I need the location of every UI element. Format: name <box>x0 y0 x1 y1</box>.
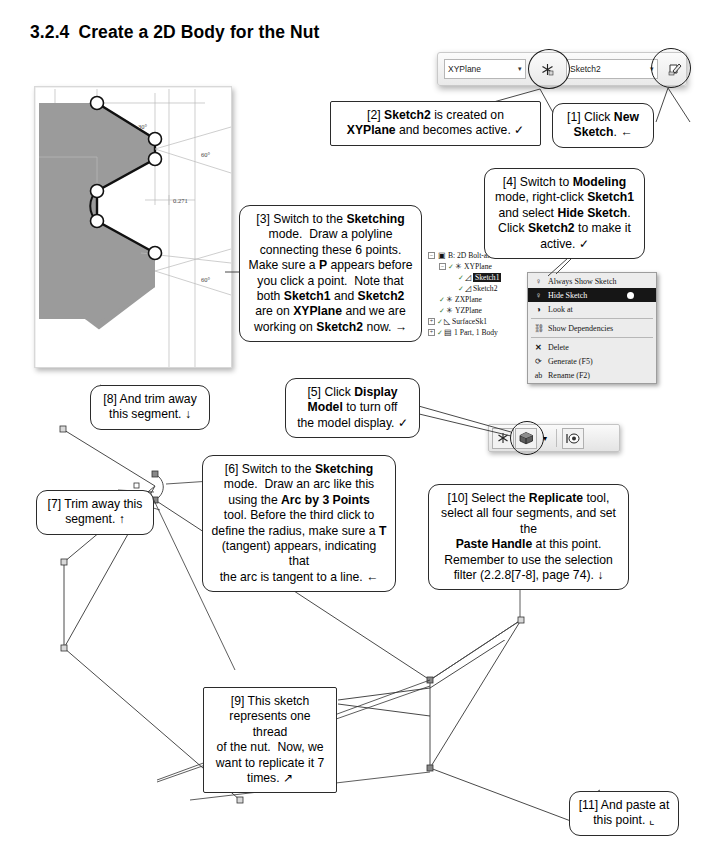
expander-icon[interactable]: − <box>428 252 435 259</box>
tree-node-label: YZPlane <box>455 306 482 315</box>
plane-icon: ✳ <box>455 262 462 271</box>
check-icon: ✓ <box>439 307 445 315</box>
plane-icon: ✳ <box>446 306 453 315</box>
callout-9: [9] This sketchrepresents one threadof t… <box>203 687 337 793</box>
body-icon: ▤ <box>444 328 452 337</box>
sketch-node <box>152 471 158 477</box>
check-icon: ✓ <box>437 329 443 337</box>
menu-item-rename[interactable]: ab Rename (F2) <box>528 368 656 382</box>
check-icon: ✓ <box>458 285 464 293</box>
check-icon: ✓ <box>448 263 454 271</box>
callout-1: [1] Click NewSketch. ← <box>552 103 654 148</box>
tree-node-label: ZXPlane <box>455 295 482 304</box>
surface-icon: ◺ <box>444 317 450 326</box>
expander-icon[interactable]: + <box>428 329 435 336</box>
menu-item-label: Generate (F5) <box>548 357 593 366</box>
project-icon: ▣ <box>438 251 446 260</box>
sketch-node <box>237 797 243 803</box>
callout-3: [3] Switch to the Sketchingmode. Draw a … <box>239 205 422 342</box>
callout-7: [7] Trim away thissegment. ↑ <box>36 490 154 535</box>
expander-icon[interactable]: + <box>428 318 435 325</box>
generate-icon: ⟳ <box>532 357 545 366</box>
callout-5: [5] Click DisplayModel to turn offthe mo… <box>285 378 420 438</box>
callout-8: [8] And trim awaythis segment. ↓ <box>90 385 210 430</box>
plane-icon: ✳ <box>446 295 453 304</box>
dim-60deg-bottom: 60° <box>201 276 211 283</box>
sketch-node <box>518 617 524 623</box>
look-at-icon[interactable] <box>562 428 584 449</box>
sketch-node <box>134 483 139 488</box>
check-icon: ✓ <box>437 318 443 326</box>
callout-2: [2] Sketch2 is created onXYPlane and bec… <box>330 101 541 146</box>
tutorial-page: 3.2.4Create a 2D Body for the Nut <box>0 0 708 851</box>
sketch-icon: ◿ <box>465 273 471 282</box>
expander-icon[interactable]: − <box>439 263 446 270</box>
sketch-icon: ◿ <box>465 284 471 293</box>
toolbar-separator <box>556 429 557 447</box>
callout-10: [10] Select the Replicate tool,select al… <box>428 484 629 590</box>
check-icon: ✓ <box>439 296 445 304</box>
sketch-node <box>61 559 67 565</box>
check-icon: ✓ <box>458 274 464 282</box>
sketch-node <box>61 645 67 651</box>
leader-callout5 <box>415 405 525 445</box>
rename-icon: ab <box>532 371 545 380</box>
callout-6: [6] Switch to the Sketchingmode. Draw an… <box>202 455 396 592</box>
callout-11: [11] And paste atthis point. ⌞ <box>569 791 679 836</box>
sketch-node <box>60 426 66 432</box>
menu-item-label: Rename (F2) <box>548 371 590 380</box>
menu-item-generate[interactable]: ⟳ Generate (F5) <box>528 354 656 368</box>
callout-4: [4] Switch to Modelingmode, right-click … <box>484 168 645 259</box>
